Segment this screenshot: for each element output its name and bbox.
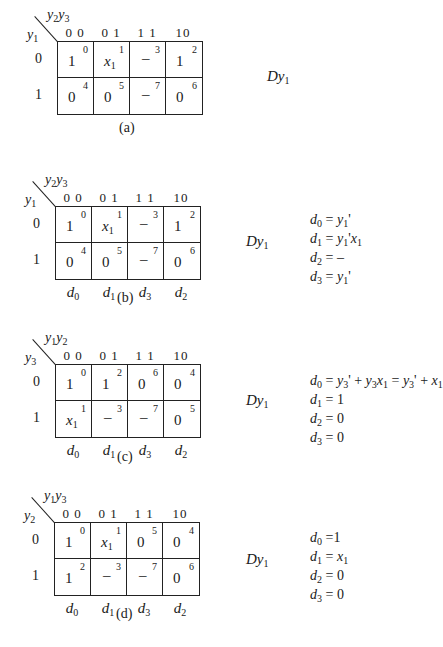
output-label: Dy1	[246, 392, 269, 410]
kmap-cell: –7	[128, 243, 164, 279]
minterm-index: 3	[153, 209, 158, 220]
minterm-index: 1	[117, 209, 122, 220]
cell-value: 0	[174, 376, 182, 393]
kmap-cell: –7	[128, 401, 164, 437]
column-header: 10	[163, 190, 199, 206]
row-header: 1	[33, 252, 40, 268]
minterm-index: 3	[117, 403, 122, 414]
minterm-index: 7	[155, 80, 160, 91]
equation: d0 = y1'	[310, 212, 362, 231]
column-output-label: d0	[55, 442, 91, 460]
cell-value: –	[104, 409, 112, 426]
kmap-cell: 04	[58, 78, 94, 114]
equation: d0 = y3' + y3x1 = y3' + x1	[310, 373, 443, 392]
row-header: 0	[33, 374, 40, 390]
kmap-cell: 05	[94, 78, 130, 114]
column-variable-label: y1y3	[44, 488, 66, 505]
cell-value: x1	[102, 218, 114, 236]
minterm-index: 2	[190, 209, 195, 220]
kmap-cell: x11	[56, 401, 92, 437]
cell-value: 0	[104, 89, 112, 106]
minterm-index: 3	[155, 44, 160, 55]
cell-value: 1	[102, 376, 110, 393]
equation-list: d0 =1d1 = x1d2 = 0d3 = 0	[310, 530, 348, 606]
column-output-label: d2	[163, 442, 199, 460]
equation: d2 = 0	[310, 411, 443, 430]
minterm-index: 5	[190, 403, 195, 414]
karnaugh-map-grid: 10x11–3120405–706	[55, 206, 201, 280]
minterm-index: 7	[152, 561, 157, 572]
column-variable-label: y1y2	[45, 330, 67, 347]
equation: d1 = y1'x1	[310, 231, 362, 250]
minterm-index: 1	[81, 403, 86, 414]
row-variable-label: y1	[25, 192, 36, 209]
minterm-index: 4	[83, 80, 88, 91]
karnaugh-map-grid: 10120604x11–3–705	[55, 364, 201, 438]
figure-caption: (b)	[117, 290, 133, 306]
cell-value: –	[142, 50, 150, 67]
figure-caption: (a)	[119, 120, 135, 136]
minterm-index: 1	[119, 44, 124, 55]
output-label: Dy1	[246, 233, 269, 251]
cell-value: –	[139, 567, 147, 584]
kmap-cell: 12	[55, 559, 91, 595]
minterm-index: 6	[189, 561, 194, 572]
cell-value: –	[103, 567, 111, 584]
minterm-index: 5	[119, 80, 124, 91]
minterm-index: 6	[153, 367, 158, 378]
minterm-index: 0	[83, 44, 88, 55]
cell-value: 0	[102, 254, 110, 271]
kmap-cell: –3	[130, 42, 166, 78]
cell-value: 1	[66, 376, 74, 393]
equation: d1 = x1	[310, 549, 348, 568]
minterm-index: 0	[80, 525, 85, 536]
minterm-index: 6	[192, 80, 197, 91]
kmap-cell: 04	[164, 365, 200, 401]
column-header: 10	[165, 25, 201, 41]
minterm-index: 3	[116, 561, 121, 572]
kmap-cell: 04	[163, 523, 199, 559]
row-header: 1	[35, 87, 42, 103]
cell-value: 1	[68, 53, 76, 70]
kmap-cell: 10	[56, 365, 92, 401]
cell-value: 1	[65, 534, 73, 551]
kmap-cell: 06	[163, 559, 199, 595]
kmap-cell: –3	[91, 559, 127, 595]
column-variable-label: y2y3	[47, 7, 69, 24]
cell-value: 1	[174, 218, 182, 235]
kmap-cell: 04	[56, 243, 92, 279]
kmap-cell: 10	[58, 42, 94, 78]
kmap-cell: x11	[92, 207, 128, 243]
column-output-label: d0	[55, 284, 91, 302]
minterm-index: 0	[81, 367, 86, 378]
column-header: 0 1	[93, 25, 129, 41]
minterm-index: 2	[192, 44, 197, 55]
minterm-index: 1	[116, 525, 121, 536]
kmap-cell: –3	[128, 207, 164, 243]
column-header: 0 0	[57, 25, 93, 41]
cell-value: –	[140, 251, 148, 268]
column-header: 10	[162, 506, 198, 522]
row-header: 0	[33, 216, 40, 232]
minterm-index: 5	[152, 525, 157, 536]
cell-value: 0	[173, 570, 181, 587]
column-header: 10	[163, 348, 199, 364]
column-header: 1 1	[129, 25, 165, 41]
kmap-cell: 05	[164, 401, 200, 437]
cell-value: x1	[101, 534, 113, 552]
output-label: Dy1	[267, 68, 290, 86]
minterm-index: 7	[153, 403, 158, 414]
minterm-index: 5	[117, 245, 122, 256]
kmap-cell: 05	[127, 523, 163, 559]
kmap-cell: 10	[56, 207, 92, 243]
kmap-cell: 05	[92, 243, 128, 279]
column-header: 0 0	[54, 506, 90, 522]
cell-value: 0	[176, 89, 184, 106]
column-header: 0 1	[90, 506, 126, 522]
kmap-cell: 12	[166, 42, 202, 78]
row-header: 1	[32, 568, 39, 584]
kmap-cell: –3	[92, 401, 128, 437]
column-header: 0 0	[55, 348, 91, 364]
column-header: 1 1	[127, 348, 163, 364]
row-variable-label: y3	[25, 350, 36, 367]
